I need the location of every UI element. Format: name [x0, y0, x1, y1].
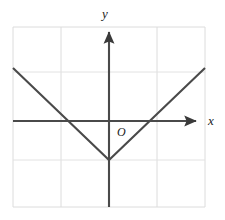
graph-figure: x y O — [0, 0, 225, 220]
x-axis-label: x — [207, 113, 214, 128]
origin-label: O — [117, 125, 126, 139]
axes — [13, 32, 196, 207]
coordinate-plane-svg: x y O — [0, 0, 225, 220]
y-axis-label: y — [100, 6, 108, 21]
